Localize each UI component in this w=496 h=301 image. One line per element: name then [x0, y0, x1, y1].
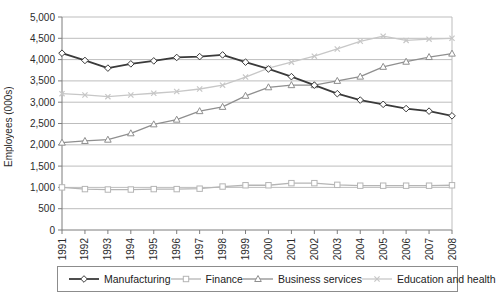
svg-text:2001: 2001 — [286, 238, 297, 261]
series-business-services — [59, 50, 456, 145]
series-manufacturing — [59, 50, 456, 119]
legend-label-education-and-health: Education and health — [397, 273, 496, 285]
svg-text:2005: 2005 — [378, 238, 389, 261]
legend-label-finance: Finance — [206, 273, 243, 285]
svg-text:2002: 2002 — [309, 238, 320, 261]
svg-text:3,500: 3,500 — [30, 75, 55, 86]
svg-text:1,000: 1,000 — [30, 182, 55, 193]
svg-text:2008: 2008 — [447, 238, 458, 261]
finance-square-line-icon — [171, 274, 201, 284]
svg-text:1998: 1998 — [217, 238, 228, 261]
svg-text:2004: 2004 — [355, 238, 366, 261]
svg-text:2,000: 2,000 — [30, 139, 55, 150]
legend-label-manufacturing: Manufacturing — [104, 273, 171, 285]
business-services-triangle-line-icon — [243, 274, 273, 284]
svg-text:1,500: 1,500 — [30, 161, 55, 172]
svg-text:2000: 2000 — [263, 238, 274, 261]
svg-text:1996: 1996 — [171, 238, 182, 261]
svg-text:500: 500 — [38, 203, 55, 214]
svg-text:1994: 1994 — [125, 238, 136, 261]
svg-text:2007: 2007 — [424, 238, 435, 261]
legend-item-education-and-health: Education and health — [362, 273, 496, 285]
legend-label-business-services: Business services — [278, 273, 362, 285]
line-chart-plot-area: 05001,0001,5002,0002,5003,0003,5004,0004… — [0, 0, 464, 264]
legend-item-manufacturing: Manufacturing — [69, 273, 171, 285]
legend-item-finance: Finance — [171, 273, 243, 285]
legend-item-business-services: Business services — [243, 273, 362, 285]
svg-text:2,500: 2,500 — [30, 118, 55, 129]
svg-text:4,500: 4,500 — [30, 33, 55, 44]
svg-text:1991: 1991 — [57, 238, 68, 261]
svg-text:5,000: 5,000 — [30, 12, 55, 23]
svg-text:1997: 1997 — [194, 238, 205, 261]
manufacturing-diamond-line-icon — [69, 274, 99, 284]
svg-text:1999: 1999 — [240, 238, 251, 261]
svg-text:1995: 1995 — [148, 238, 159, 261]
series-finance — [59, 180, 454, 192]
education-and-health-x-line-icon — [362, 274, 392, 284]
svg-text:3,000: 3,000 — [30, 97, 55, 108]
svg-text:4,000: 4,000 — [30, 54, 55, 65]
svg-text:0: 0 — [49, 225, 55, 236]
svg-text:1993: 1993 — [102, 238, 113, 261]
svg-text:2003: 2003 — [332, 238, 343, 261]
svg-text:2006: 2006 — [401, 238, 412, 261]
chart-legend: Manufacturing Finance Business services … — [57, 266, 458, 292]
svg-text:1992: 1992 — [79, 238, 90, 261]
